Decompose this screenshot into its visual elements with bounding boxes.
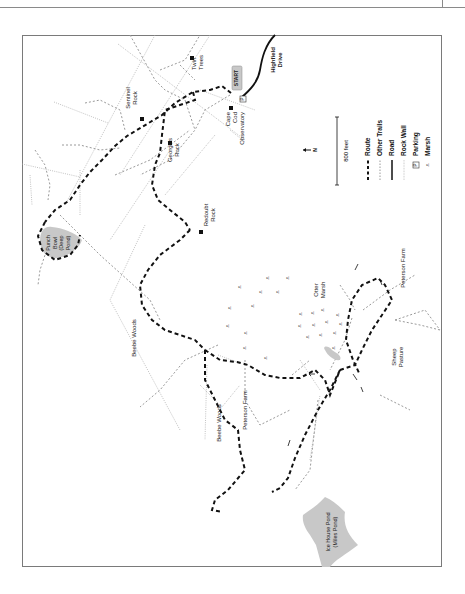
svg-text:⩡: ⩡ (310, 323, 318, 327)
svg-text:N: N (312, 148, 318, 152)
svg-text:⩡: ⩡ (264, 276, 272, 280)
other-trails (35, 35, 440, 490)
svg-text:Sentinel: Sentinel (125, 87, 131, 109)
svg-text:Peterson Farm: Peterson Farm (242, 390, 248, 430)
scale-bar: 800 feet (335, 117, 349, 185)
svg-text:⩡: ⩡ (226, 306, 234, 310)
svg-text:Beebe Woods: Beebe Woods (131, 319, 137, 357)
svg-text:Parking: Parking (412, 132, 420, 156)
svg-text:Trees: Trees (198, 55, 204, 70)
svg-text:Ice House Pond: Ice House Pond (325, 512, 331, 551)
svg-text:Rock: Rock (210, 207, 216, 222)
cape-cod-observatory-marker (229, 106, 233, 110)
svg-text:Rock: Rock (174, 142, 180, 157)
svg-text:Redoubt: Redoubt (203, 203, 209, 226)
svg-text:Bowl: Bowl (52, 237, 58, 249)
svg-text:Rock Wall: Rock Wall (400, 125, 407, 156)
svg-text:Pasture: Pasture (398, 346, 404, 367)
north-arrow-icon: N (303, 148, 318, 152)
svg-text:Beebe Woods: Beebe Woods (216, 404, 222, 442)
svg-text:Punch: Punch (45, 235, 51, 251)
svg-text:Observatory: Observatory (239, 112, 245, 145)
svg-text:⩡: ⩡ (337, 322, 345, 326)
svg-text:Twin: Twin (191, 58, 197, 70)
svg-text:Rock: Rock (132, 90, 138, 105)
svg-text:⩡: ⩡ (331, 331, 339, 335)
legend-rock-wall: Rock Wall (400, 125, 407, 180)
legend-parking: P Parking (412, 132, 420, 168)
map-labels: HighfieldDrive CapeCodObservatory TwinTr… (45, 47, 406, 552)
svg-text:⩡: ⩡ (241, 346, 249, 350)
legend-road: Road (388, 140, 395, 180)
svg-text:Pond): Pond) (65, 235, 71, 250)
svg-text:George's: George's (167, 138, 173, 162)
svg-text:⩡: ⩡ (262, 356, 270, 360)
svg-text:⩡: ⩡ (309, 311, 317, 315)
svg-text:⩡: ⩡ (323, 320, 331, 324)
svg-text:⩡: ⩡ (304, 335, 312, 339)
svg-text:⩡: ⩡ (296, 324, 304, 328)
svg-text:Peterson Farm: Peterson Farm (400, 248, 406, 288)
svg-text:Highfield: Highfield (270, 47, 276, 73)
svg-text:Sheep: Sheep (391, 348, 397, 366)
svg-text:Otter: Otter (313, 283, 319, 296)
parking-icon: P (240, 96, 246, 102)
start-marker: START (232, 66, 242, 90)
start-label: START (233, 70, 239, 86)
svg-text:⩡: ⩡ (236, 285, 244, 289)
svg-text:⩡: ⩡ (284, 276, 292, 280)
svg-text:⩡: ⩡ (224, 324, 232, 328)
svg-text:⩡: ⩡ (319, 308, 327, 312)
svg-text:⩡: ⩡ (317, 333, 325, 337)
svg-text:P: P (240, 97, 245, 100)
svg-text:⩡: ⩡ (257, 290, 265, 294)
sentinel-rock-marker (140, 117, 144, 121)
redoubt-rock-marker (199, 230, 203, 234)
svg-text:Route: Route (364, 137, 371, 156)
svg-text:Other Trails: Other Trails (376, 119, 383, 156)
route (38, 86, 392, 512)
svg-text:P: P (413, 163, 418, 166)
marsh-icon: ⩡ (424, 163, 432, 167)
trail-map: ⩡ ⩡ ⩡ ⩡ ⩡ ⩡ ⩡ ⩡ ⩡ ⩡ ⩡ ⩡ ⩡ ⩡ ⩡ ⩡ ⩡ ⩡ ⩡ ⩡ … (0, 0, 465, 594)
svg-text:Road: Road (388, 140, 395, 156)
svg-text:Drive: Drive (277, 52, 283, 68)
landmark-markers (140, 56, 233, 234)
svg-text:(Deep: (Deep (58, 236, 64, 251)
svg-text:⩡: ⩡ (334, 313, 342, 317)
svg-text:⩡: ⩡ (274, 290, 282, 294)
svg-text:⩡: ⩡ (330, 346, 338, 350)
svg-text:⩡: ⩡ (242, 331, 250, 335)
svg-text:Marsh: Marsh (320, 282, 326, 299)
svg-text:⩡: ⩡ (297, 312, 305, 316)
svg-text:Cod: Cod (232, 112, 238, 123)
legend-marsh: ⩡ Marsh (424, 137, 432, 167)
legend: Route Other Trails Road Rock Wall P Park… (364, 119, 432, 180)
svg-text:⩡: ⩡ (249, 304, 257, 308)
svg-text:Marsh: Marsh (424, 137, 431, 156)
legend-route: Route (364, 137, 371, 180)
svg-text:Cape: Cape (225, 111, 231, 126)
svg-text:(Miles Pond): (Miles Pond) (332, 516, 338, 547)
scale-bar-label: 800 feet (343, 140, 349, 162)
legend-other-trails: Other Trails (376, 119, 383, 180)
water-bodies (40, 227, 358, 567)
